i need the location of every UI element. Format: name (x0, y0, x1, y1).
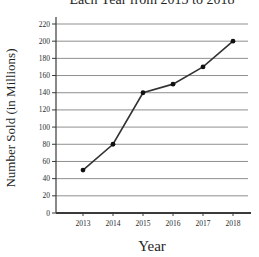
y-tick-label: 100 (39, 123, 51, 132)
y-tick-label: 180 (39, 54, 51, 63)
y-tick-label: 220 (39, 20, 51, 29)
data-point (171, 82, 176, 87)
y-tick-label: 120 (39, 105, 51, 114)
data-point (141, 90, 146, 95)
y-tick-label: 140 (39, 88, 51, 97)
x-tick-label: 2013 (76, 219, 91, 228)
y-tick-label: 40 (43, 174, 51, 183)
data-point (111, 142, 116, 147)
data-point (231, 39, 236, 44)
x-tick-label: 2017 (196, 219, 211, 228)
x-tick-label: 2014 (106, 219, 121, 228)
y-tick-label: 0 (46, 209, 50, 218)
line-chart: Each Year from 2013 to 2018 Number Sold … (0, 0, 259, 257)
data-line (83, 41, 233, 170)
x-tick-label: 2015 (136, 219, 151, 228)
y-tick-label: 60 (43, 157, 51, 166)
y-tick-label: 200 (39, 37, 51, 46)
data-point (81, 168, 86, 173)
x-axis-title: Year (56, 238, 248, 255)
x-tick-label: 2018 (226, 219, 241, 228)
y-tick-label: 160 (39, 71, 51, 80)
plot-area: 0204060801001201401601802002202013201420… (0, 0, 259, 257)
y-tick-label: 80 (43, 140, 51, 149)
x-tick-label: 2016 (166, 219, 181, 228)
y-tick-label: 20 (43, 191, 51, 200)
data-point (201, 65, 206, 70)
